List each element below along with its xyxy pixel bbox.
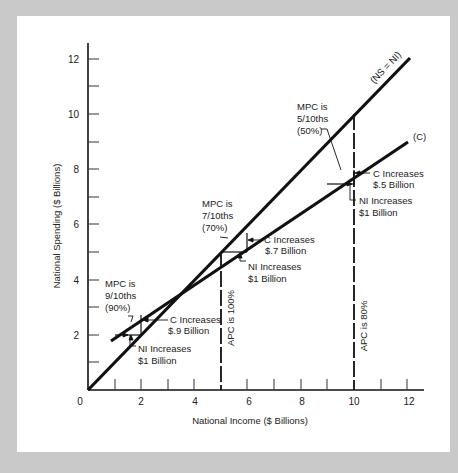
mpc90-label-l3: (90%) xyxy=(105,302,130,313)
origin-label: 0 xyxy=(77,396,83,407)
y-ticks xyxy=(88,59,99,362)
c-increase-05-l1: C Increases xyxy=(373,168,424,179)
c-increase-05-l2: $.5 Billion xyxy=(373,179,414,190)
mpc70-label-l3: (70%) xyxy=(202,222,227,233)
x-axis-title: National Income ($ Billions) xyxy=(192,415,308,426)
mpc50-label-l1: MPC is xyxy=(297,101,328,112)
x-tick-label: 8 xyxy=(299,396,305,407)
mpc50-label-l3: (50%) xyxy=(297,125,322,136)
ni-increase-1a-l1: NI Increases xyxy=(138,343,192,354)
apc100-label: APC is 100% xyxy=(225,289,236,346)
y-tick-label: 2 xyxy=(73,330,79,341)
mpc50-label-l2: 5/10ths xyxy=(297,113,328,124)
x-ticks xyxy=(115,379,407,390)
x-tick-label: 12 xyxy=(403,396,415,407)
y-tick-label: 6 xyxy=(73,219,79,230)
y-axis-title: National Spending ($ Billions) xyxy=(51,164,62,289)
x-tick-label: 4 xyxy=(192,396,198,407)
x-tick-label: 2 xyxy=(138,396,144,407)
ni-increase-1b-l2: $1 Billion xyxy=(248,273,287,284)
x-tick-label: 10 xyxy=(348,396,360,407)
c-increase-07-l1: C Increases xyxy=(264,234,315,245)
x-tick-label: 6 xyxy=(246,396,252,407)
y-tick-label: 10 xyxy=(68,109,80,120)
mpc70-label-l1: MPC is xyxy=(202,198,233,209)
ns-ni-line-label: (NS = NI) xyxy=(368,49,404,85)
ni-increase-1c-l2: $1 Billion xyxy=(359,207,398,218)
c-increase-07-l2: $.7 Billion xyxy=(265,245,306,256)
y-tick-label: 4 xyxy=(73,275,79,286)
c-line-label: (C) xyxy=(413,131,426,142)
mpc90-label-l1: MPC is xyxy=(105,278,136,289)
y-tick-label: 8 xyxy=(73,164,79,175)
c-increase-09-l1: C Increases xyxy=(170,314,221,325)
c-increase-09-l2: $.9 Billion xyxy=(168,325,209,336)
ni-increase-1c-l1: NI Increases xyxy=(359,195,413,206)
ni-increase-1a-l2: $1 Billion xyxy=(138,355,177,366)
apc80-label: APC is 80% xyxy=(358,300,369,351)
y-tick-label: 12 xyxy=(68,54,80,65)
mpc70-label-l2: 7/10ths xyxy=(202,210,233,221)
mpc90-label-l2: 9/10ths xyxy=(105,290,136,301)
ni-increase-1b-l1: NI Increases xyxy=(248,261,302,272)
chart-canvas: 2 4 6 8 10 12 0 2 4 6 8 10 12 National I… xyxy=(0,0,458,473)
